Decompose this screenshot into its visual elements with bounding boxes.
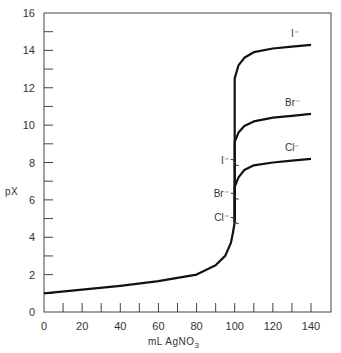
x-tick-label: 60 <box>152 320 164 332</box>
x-tick-label: 100 <box>226 320 244 332</box>
y-axis-label: pX <box>5 186 18 197</box>
titration-chart: 0246810121416020406080100120140 I⁻Br⁻Cl⁻… <box>0 0 341 353</box>
curves <box>44 45 311 293</box>
x-tick-label: 40 <box>114 320 126 332</box>
tick-labels: 0246810121416020406080100120140 <box>23 7 320 332</box>
break-marker-label: Cl⁻ <box>214 212 228 223</box>
curve-label-cl: Cl⁻ <box>285 142 299 153</box>
break-marker-label: I⁻ <box>221 155 229 166</box>
plot-border <box>44 13 331 312</box>
y-tick-label: 12 <box>23 82 35 94</box>
x-tick-label: 140 <box>302 320 320 332</box>
y-tick-label: 6 <box>29 194 35 206</box>
curve-label-br: Br⁻ <box>285 97 300 108</box>
x-tick-label: 80 <box>190 320 202 332</box>
curve-pre-equivalence <box>44 222 235 293</box>
y-tick-label: 8 <box>29 157 35 169</box>
y-tick-label: 16 <box>23 7 35 19</box>
y-tick-label: 10 <box>23 119 35 131</box>
x-tick-label: 0 <box>41 320 47 332</box>
y-tick-label: 4 <box>29 231 35 243</box>
break-marker-label: Br⁻ <box>214 188 229 199</box>
y-tick-label: 0 <box>29 306 35 318</box>
axis-ticks <box>44 32 311 312</box>
curve-cl <box>235 159 311 223</box>
x-tick-label: 120 <box>264 320 282 332</box>
x-axis-label: mL AgNO3 <box>148 336 199 350</box>
curve-i <box>235 45 311 223</box>
x-tick-label: 20 <box>76 320 88 332</box>
curve-label-i: I⁻ <box>291 28 299 39</box>
plot-frame <box>44 13 331 312</box>
y-tick-label: 2 <box>29 269 35 281</box>
y-tick-label: 14 <box>23 44 35 56</box>
